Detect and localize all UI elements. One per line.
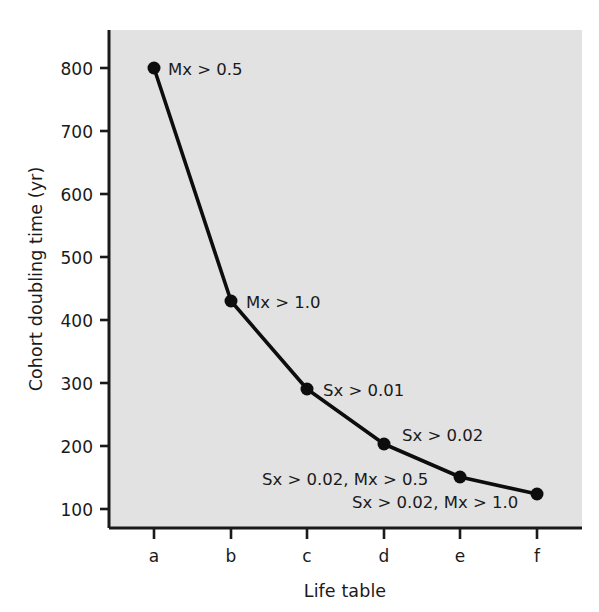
data-point-f (531, 488, 544, 501)
data-point-e (454, 471, 467, 484)
annotation-label-c: Sx > 0.01 (323, 381, 404, 400)
annotation-label-a: Mx > 0.5 (168, 60, 243, 79)
annotation-label-e: Sx > 0.02, Mx > 0.5 (262, 470, 428, 489)
x-axis-title: Life table (304, 581, 386, 601)
y-tick-label: 200 (61, 437, 93, 457)
x-tick-marks (154, 528, 537, 539)
x-tick-label: e (455, 546, 465, 566)
y-tick-label: 800 (61, 59, 93, 79)
data-point-c (301, 383, 314, 396)
plot-background (109, 30, 582, 528)
cohort-doubling-time-line-chart: 800 700 600 500 400 300 200 100 a b c d … (0, 0, 599, 612)
data-point-b (225, 295, 238, 308)
annotation-label-f: Sx > 0.02, Mx > 1.0 (352, 493, 518, 512)
x-tick-label: c (302, 546, 311, 566)
y-tick-label: 700 (61, 122, 93, 142)
data-point-a (148, 62, 161, 75)
annotation-label-d: Sx > 0.02 (402, 426, 483, 445)
y-tick-label: 600 (61, 185, 93, 205)
annotation-label-b: Mx > 1.0 (246, 293, 321, 312)
y-tick-label: 300 (61, 374, 93, 394)
y-tick-label: 100 (61, 500, 93, 520)
x-tick-label: d (379, 546, 390, 566)
chart-figure: 800 700 600 500 400 300 200 100 a b c d … (0, 0, 599, 612)
y-tick-label: 400 (61, 311, 93, 331)
x-tick-label: b (226, 546, 237, 566)
y-axis-title: Cohort doubling time (yr) (26, 167, 46, 392)
data-point-d (378, 438, 391, 451)
x-tick-label: f (534, 546, 541, 566)
x-tick-label: a (149, 546, 159, 566)
y-tick-label: 500 (61, 248, 93, 268)
